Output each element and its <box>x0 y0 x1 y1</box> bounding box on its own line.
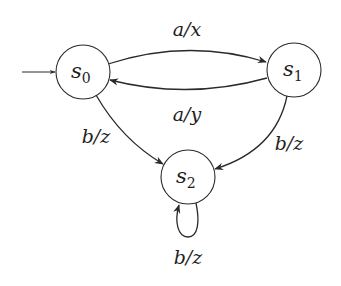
label-s0-s1: a/x <box>173 18 202 40</box>
edge-s0-s1 <box>108 50 266 64</box>
label-s1-s0: a/y <box>173 103 202 125</box>
edge-s2-s2-loop <box>177 203 198 237</box>
label-s0-s2: b/z <box>82 125 112 147</box>
label-s2-s2: b/z <box>174 246 204 268</box>
label-s1-s2: b/z <box>275 132 305 154</box>
edge-s1-s0 <box>110 78 267 90</box>
state-diagram: s0 s1 s2 a/x a/y b/z b/z b/z <box>0 0 341 286</box>
state-s2: s2 <box>161 150 215 204</box>
state-s0: s0 <box>56 45 110 99</box>
state-s1: s1 <box>267 43 321 97</box>
